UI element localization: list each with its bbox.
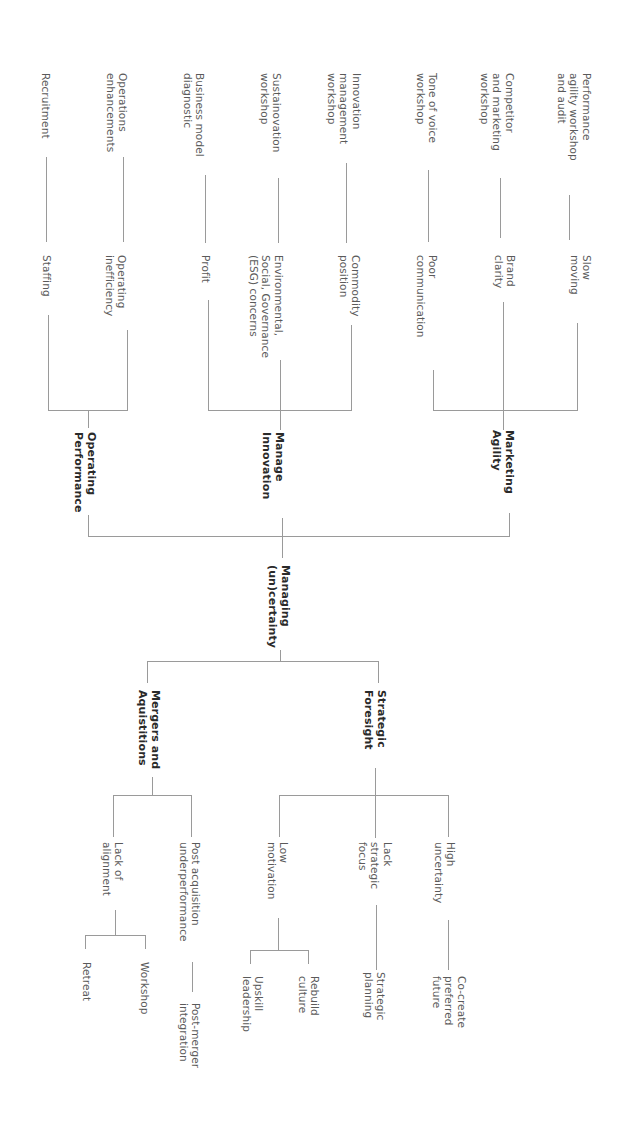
- solution-performance-agility-workshop: Performance agility workshop and audit: [555, 73, 593, 161]
- connector-line: [346, 163, 347, 243]
- connector-line: [127, 330, 128, 410]
- connector-line: [48, 315, 49, 410]
- bracket-lower-root: [147, 661, 379, 662]
- root-managing-uncertainty: Managing (un)certainty: [266, 565, 292, 648]
- bracket-low-motivation: [250, 950, 309, 951]
- connector-line: [205, 175, 206, 243]
- connector-line: [500, 178, 501, 238]
- connector-line: [376, 905, 377, 970]
- connector-line: [46, 157, 47, 242]
- solution-upskill-leadership: Upskill leadership: [240, 976, 265, 1032]
- solution-operations-enhancements: Operations enhancements: [104, 73, 129, 152]
- problem-brand-clarity: Brand clarity: [492, 255, 517, 288]
- solution-tone-of-voice-workshop: Tone of voice workshop: [414, 73, 439, 143]
- solution-strategic-planning: Strategic planning: [362, 972, 387, 1020]
- connector-line: [428, 170, 429, 242]
- connector-line: [378, 661, 379, 683]
- connector-line: [282, 518, 283, 558]
- bracket-marketing-agility: [433, 410, 578, 411]
- problem-staffing: Staffing: [40, 255, 53, 297]
- bracket-strategic-foresight: [279, 795, 449, 796]
- connector-line: [147, 661, 148, 683]
- problem-operating-inefficiency: Operating inefficiency: [103, 255, 128, 316]
- connector-line: [448, 920, 449, 970]
- solution-innovation-management-workshop: Innovation management workshop: [325, 73, 363, 144]
- connector-line: [279, 795, 280, 837]
- solution-business-model-diagnostic: Business model diagnostic: [181, 73, 206, 157]
- connector-line: [375, 768, 376, 838]
- connector-line: [569, 195, 570, 240]
- connector-line: [448, 795, 449, 837]
- connector-line: [152, 777, 153, 795]
- connector-line: [278, 178, 279, 243]
- connector-line: [278, 918, 279, 950]
- category-strategic-foresight: Strategic Foresight: [362, 690, 388, 750]
- problem-commodity-position: Commodity position: [337, 255, 362, 316]
- connector-line: [351, 325, 352, 410]
- problem-post-acquisition-underperformance: Post acquisition underperformance: [177, 842, 202, 942]
- connector-line: [88, 410, 89, 428]
- connector-line: [192, 962, 193, 992]
- connector-line: [308, 950, 309, 964]
- category-operating-performance: Operating Performance: [72, 432, 98, 513]
- solution-rebuild-culture: Rebuild culture: [296, 976, 321, 1016]
- problem-poor-communication: Poor communication: [414, 255, 439, 338]
- connector-line: [123, 157, 124, 242]
- solution-post-merger-integration: Post-merger integration: [177, 1003, 202, 1068]
- solution-sustainovation-workshop: Sustainovation workshop: [258, 73, 283, 153]
- solution-retreat: Retreat: [80, 962, 93, 1001]
- connector-line: [280, 360, 281, 430]
- problem-slow-moving: Slow moving: [568, 255, 593, 295]
- problem-high-uncertainty: High uncertainty: [432, 842, 457, 903]
- bracket-lack-of-alignment: [85, 935, 146, 936]
- connector-line: [433, 370, 434, 410]
- bracket-upper-root: [88, 536, 510, 537]
- connector-line: [208, 300, 209, 410]
- solution-workshop: Workshop: [138, 962, 151, 1015]
- category-marketing-agility: Marketing Agility: [490, 430, 516, 494]
- connector-line: [145, 935, 146, 949]
- connector-line: [85, 935, 86, 949]
- connector-line: [280, 650, 281, 661]
- problem-low-motivation: Low motivation: [265, 842, 290, 899]
- bracket-manage-innovation: [208, 410, 352, 411]
- category-manage-innovation: Manage Innovation: [260, 432, 286, 499]
- connector-line: [577, 323, 578, 410]
- problem-esg-concerns: Environmental, Social, Governance (ESG) …: [247, 255, 285, 358]
- problem-lack-strategic-focus: Lack strategic focus: [356, 842, 394, 889]
- solution-recruitment: Recruitment: [39, 73, 52, 139]
- connector-line: [88, 515, 89, 536]
- problem-lack-of-alignment: Lack of alignment: [100, 842, 125, 896]
- connector-line: [115, 910, 116, 935]
- bracket-mergers-acquisitions: [113, 795, 192, 796]
- connector-line: [191, 795, 192, 837]
- solution-co-create-preferred-future: Co-create preferred future: [430, 976, 468, 1028]
- connector-line: [250, 950, 251, 964]
- connector-line: [113, 795, 114, 837]
- problem-profit: Profit: [199, 255, 212, 283]
- solution-competitor-marketing-workshop: Competitor and marketing workshop: [478, 73, 516, 151]
- connector-line: [509, 513, 510, 536]
- category-mergers-acquisitions: Mergers and Aquistitions: [136, 690, 162, 769]
